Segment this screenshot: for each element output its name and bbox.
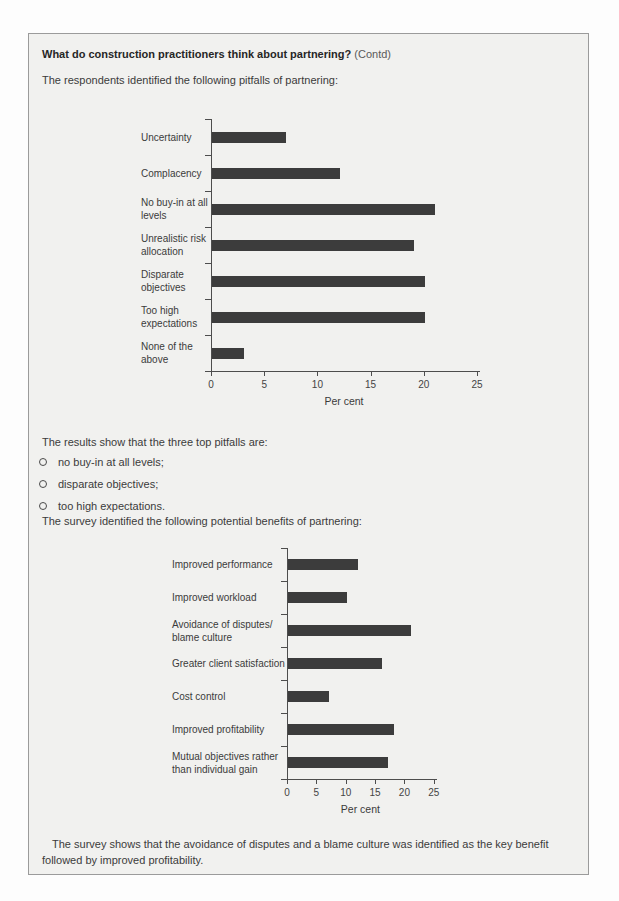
x-axis-tick	[346, 780, 347, 784]
bar	[288, 658, 382, 669]
x-axis-tick-label: 25	[466, 379, 488, 390]
bar	[212, 132, 286, 143]
category-label-text: Mutual objectives rather than individual…	[172, 750, 288, 776]
list-item-text: too high expectations.	[58, 499, 165, 514]
x-axis-tick	[434, 780, 435, 784]
category-label-text: Cost control	[172, 690, 225, 703]
x-axis-tick	[317, 372, 318, 376]
circle-bullet-icon	[39, 502, 47, 510]
circle-bullet-icon	[39, 458, 47, 466]
category-label-text: Improved profitability	[172, 723, 264, 736]
x-axis-title: Per cent	[211, 395, 477, 407]
x-axis-tick-label: 20	[413, 379, 435, 390]
bar	[288, 592, 347, 603]
benefits-bar-chart: Improved performanceImproved workloadAvo…	[29, 544, 590, 829]
pitfalls-bar-chart: UncertaintyComplacencyNo buy-in at all l…	[29, 111, 590, 433]
bar	[288, 625, 411, 636]
category-label: Unrealistic risk allocation	[141, 227, 211, 263]
category-label: Improved profitability	[172, 713, 288, 746]
category-label-text: None of the above	[141, 340, 211, 366]
bar	[212, 312, 425, 323]
benefits-intro-text: The survey identified the following pote…	[42, 513, 362, 529]
x-axis-tick	[424, 372, 425, 376]
x-axis-tick	[211, 372, 212, 376]
page: { "page": { "title": "What do constructi…	[0, 0, 619, 901]
x-axis-tick	[404, 780, 405, 784]
category-label: None of the above	[141, 335, 211, 371]
circle-bullet-icon	[39, 480, 47, 488]
x-axis-title: Per cent	[287, 803, 434, 815]
section-title: What do construction practitioners think…	[42, 46, 391, 62]
x-axis-tick-label: 10	[306, 379, 328, 390]
bar	[288, 757, 388, 768]
category-label: Greater client satisfaction	[172, 647, 288, 680]
bar	[212, 276, 425, 287]
bar	[288, 724, 394, 735]
x-axis-tick	[287, 780, 288, 784]
x-axis-tick	[264, 372, 265, 376]
x-axis-tick-label: 15	[360, 379, 382, 390]
category-label: Avoidance of disputes/ blame culture	[172, 614, 288, 647]
list-item-text: no buy-in at all levels;	[58, 455, 164, 470]
bar	[212, 240, 414, 251]
x-axis-tick	[477, 372, 478, 376]
top-pitfalls-list: no buy-in at all levels;disparate object…	[39, 455, 165, 521]
x-axis-tick-label: 20	[393, 787, 415, 798]
x-axis-tick-label: 0	[276, 787, 298, 798]
x-axis-tick	[371, 372, 372, 376]
x-axis-tick	[316, 780, 317, 784]
category-label: Cost control	[172, 680, 288, 713]
category-label-text: Avoidance of disputes/ blame culture	[172, 618, 288, 644]
category-label: No buy-in at all levels	[141, 191, 211, 227]
category-label: Complacency	[141, 155, 211, 191]
results-intro-text: The results show that the three top pitf…	[42, 434, 268, 450]
category-label: Improved performance	[172, 548, 288, 581]
x-axis-line	[287, 779, 437, 780]
category-label: Improved workload	[172, 581, 288, 614]
category-label: Too high expectations	[141, 299, 211, 335]
x-axis-tick	[375, 780, 376, 784]
x-axis-tick-label: 15	[364, 787, 386, 798]
category-label: Uncertainty	[141, 119, 211, 155]
category-label-text: No buy-in at all levels	[141, 196, 211, 222]
category-label-text: Too high expectations	[141, 304, 211, 330]
category-label-text: Unrealistic risk allocation	[141, 232, 211, 258]
bar	[212, 204, 435, 215]
x-axis-line	[211, 371, 480, 372]
conclusion-text: The survey shows that the avoidance of d…	[42, 836, 578, 868]
pitfalls-intro-text: The respondents identified the following…	[42, 72, 338, 88]
x-axis-tick-label: 5	[305, 787, 327, 798]
section-title-text: What do construction practitioners think…	[42, 48, 351, 60]
x-axis-tick-label: 0	[200, 379, 222, 390]
list-item: disparate objectives;	[39, 477, 165, 499]
bar	[288, 691, 329, 702]
bar	[212, 348, 244, 359]
category-label-text: Uncertainty	[141, 131, 192, 144]
category-label-text: Improved performance	[172, 558, 273, 571]
category-label-text: Complacency	[141, 167, 202, 180]
category-label: Mutual objectives rather than individual…	[172, 746, 288, 779]
list-item: no buy-in at all levels;	[39, 455, 165, 477]
category-label-text: Greater client satisfaction	[172, 657, 285, 670]
content-box: What do construction practitioners think…	[28, 33, 589, 875]
category-label: Disparate objectives	[141, 263, 211, 299]
x-axis-tick-label: 5	[253, 379, 275, 390]
bar	[288, 559, 358, 570]
x-axis-tick-label: 25	[423, 787, 445, 798]
bar	[212, 168, 340, 179]
list-item-text: disparate objectives;	[58, 477, 158, 492]
x-axis-tick-label: 10	[335, 787, 357, 798]
category-label-text: Improved workload	[172, 591, 256, 604]
category-label-text: Disparate objectives	[141, 268, 211, 294]
contd-label: (Contd)	[354, 48, 391, 60]
